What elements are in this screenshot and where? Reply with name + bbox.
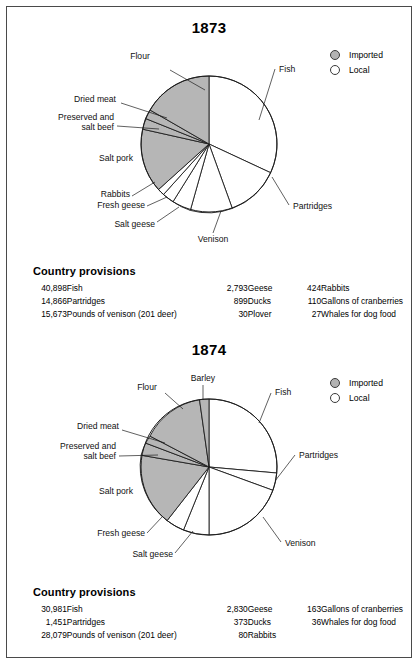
cell-label: Gallons of cranberries [321,294,403,307]
table-row: 40,898 Fish 2,793 Geese 424 Rabbits [33,281,403,294]
pie-label-venison: Venison [198,234,229,244]
leader-salt-geese [157,207,179,222]
leader-partridges [275,455,295,481]
table-row: 30,981 Fish 2,830 Geese 163 Gallons of c… [33,602,403,615]
pie-label-preserved-line2: salt beef [82,122,115,132]
leader-venison [263,517,281,542]
pie-label-partridges: Partridges [299,450,338,460]
pie-slice-fish [209,399,277,473]
pie-label-preserved-line2: salt beef [84,451,117,461]
cell-value: 373 [214,615,248,628]
cell-value: 28,079 [33,628,67,641]
pie-label-barley: Barley [191,373,216,383]
pie-label-dried-meat: Dried meat [77,421,120,431]
cell-value: 163 [295,602,321,615]
cell-value: 424 [295,281,321,294]
cell-label: Whales for dog food [321,615,403,628]
cell-value: 2,830 [214,602,248,615]
cell-value: 80 [214,628,248,641]
pie-label-salt-geese: Salt geese [114,219,155,229]
leader-venison [213,211,221,233]
pie-label-fish: Fish [279,64,295,74]
cell-label: Partridges [67,294,214,307]
cell-value: 14,866 [33,294,67,307]
cell-label [321,628,403,641]
pie-label-fresh-geese: Fresh geese [97,528,145,538]
pie-chart-1874: Barley Flour Dried meat Preserved and sa… [7,337,412,587]
cell-label: Rabbits [321,281,403,294]
cell-label: Rabbits [248,628,296,641]
pie-label-rabbits: Rabbits [101,189,130,199]
cell-label: Ducks [248,294,296,307]
cell-value: 36 [295,615,321,628]
cell-value: 1,451 [33,615,67,628]
figure-frame: 1873 Imported Local [6,6,412,658]
pie-label-partridges: Partridges [293,201,332,211]
cell-label: Ducks [248,615,296,628]
provisions-table-1873: 40,898 Fish 2,793 Geese 424 Rabbits 14,8… [33,281,403,321]
cell-label: Pounds of venison (201 deer) [67,628,214,641]
table-row: 14,866 Partridges 899 Ducks 110 Gallons … [33,294,403,307]
cell-label: Geese [248,281,296,294]
pie-label-salt-geese: Salt geese [132,549,173,559]
cell-label: Fish [67,602,214,615]
provisions-heading-1874: Country provisions [33,586,403,598]
cell-value: 27 [295,307,321,320]
pie-label-fresh-geese: Fresh geese [97,200,145,210]
cell-value: 30,981 [33,602,67,615]
leader-flour [165,393,183,409]
provisions-table-1874: 30,981 Fish 2,830 Geese 163 Gallons of c… [33,602,403,642]
panel-1874: 1874 Imported Local [7,337,411,657]
leader-rabbits [132,182,155,196]
provisions-heading-1873: Country provisions [33,265,403,277]
cell-value: 15,673 [33,307,67,320]
pie-label-preserved-line1: Preserved and [60,441,116,451]
cell-value: 110 [295,294,321,307]
pie-label-salt-pork: Salt pork [99,153,134,163]
panel-1873: 1873 Imported Local [7,7,411,337]
cell-value: 899 [214,294,248,307]
pie-slices-1873 [141,76,277,213]
cell-label: Whales for dog food [321,307,403,320]
pie-label-fish: Fish [275,387,291,397]
provisions-1874: Country provisions 30,981 Fish 2,830 Gee… [33,586,403,642]
pie-label-dried-meat: Dried meat [74,94,117,104]
pie-label-preserved-line1: Preserved and [58,112,114,122]
leader-salt-geese [175,531,193,553]
leader-partridges [272,177,289,205]
pie-label-venison: Venison [285,538,316,548]
table-row: 15,673 Pounds of venison (201 deer) 30 P… [33,307,403,320]
leader-fish [259,393,271,423]
cell-value [295,628,321,641]
cell-label: Pounds of venison (201 deer) [67,307,214,320]
pie-chart-1873: Flour Dried meat Preserved and salt beef… [7,7,412,265]
table-row: 1,451 Partridges 373 Ducks 36 Whales for… [33,615,403,628]
cell-label: Plover [248,307,296,320]
leader-fresh-geese [147,197,167,206]
pie-label-flour: Flour [130,51,150,61]
pie-slices-1874 [140,399,277,535]
provisions-1873: Country provisions 40,898 Fish 2,793 Gee… [33,265,403,321]
cell-label: Gallons of cranberries [321,602,403,615]
cell-value: 2,793 [214,281,248,294]
cell-label: Partridges [67,615,214,628]
pie-label-salt-pork: Salt pork [99,486,134,496]
cell-label: Fish [67,281,214,294]
leader-fresh-geese [147,517,162,533]
pie-label-flour: Flour [137,382,157,392]
table-row: 28,079 Pounds of venison (201 deer) 80 R… [33,628,403,641]
cell-value: 40,898 [33,281,67,294]
cell-value: 30 [214,307,248,320]
cell-label: Geese [248,602,296,615]
